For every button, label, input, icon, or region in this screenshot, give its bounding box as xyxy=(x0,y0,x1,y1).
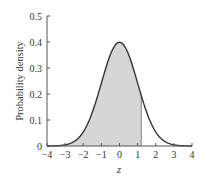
x-tick-label: −3 xyxy=(60,149,71,160)
x-tick-label: −4 xyxy=(42,149,53,160)
x-axis-label: z xyxy=(116,164,121,175)
x-tick-label: 2 xyxy=(153,149,158,160)
x-tick-label: 0 xyxy=(117,149,122,160)
x-tick-label: 1 xyxy=(135,149,140,160)
y-tick-label: 0.5 xyxy=(30,11,43,22)
y-tick-label: 0.4 xyxy=(30,37,43,48)
y-tick-label: 0.3 xyxy=(30,63,43,74)
y-axis: 00.10.20.30.40.5 xyxy=(30,11,51,152)
normal-distribution-chart: 00.10.20.30.40.5 −4−3−2−101234 z Probabi… xyxy=(0,0,206,185)
x-tick-label: 3 xyxy=(171,149,176,160)
y-axis-label: Probability density xyxy=(14,40,25,120)
x-tick-label: −1 xyxy=(96,149,107,160)
x-tick-label: −2 xyxy=(78,149,89,160)
y-tick-label: 0.1 xyxy=(30,115,43,126)
y-tick-label: 0.2 xyxy=(30,89,43,100)
x-tick-label: 4 xyxy=(190,149,195,160)
x-axis: −4−3−2−101234 xyxy=(42,143,195,160)
shaded-area xyxy=(47,42,141,146)
